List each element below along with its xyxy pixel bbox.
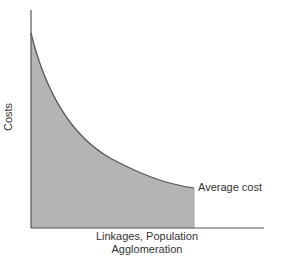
- average-cost-annotation: Average cost: [198, 181, 262, 194]
- shaded-area-under-curve: [31, 33, 194, 228]
- x-axis-label-line2: Agglomeration: [77, 243, 217, 256]
- average-cost-chart: [0, 0, 281, 265]
- y-axis-label: Costs: [1, 95, 15, 139]
- x-axis-label: Linkages, Population Agglomeration: [77, 230, 217, 256]
- x-axis-label-line1: Linkages, Population: [77, 230, 217, 243]
